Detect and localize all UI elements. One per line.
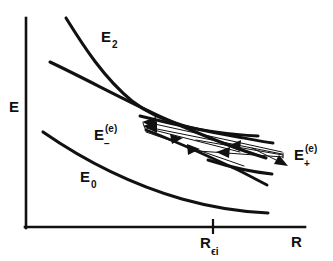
transition-arrow-6-head: [216, 147, 230, 158]
x-tick-label: R ϵi: [200, 234, 219, 257]
transition-arrow-4-head: [187, 144, 200, 155]
x-tick-label-base: R: [200, 234, 211, 251]
energy-curve-diagram: E R R ϵi E 2 E 0 E − (e): [0, 0, 333, 261]
y-axis-label: E: [9, 98, 19, 115]
branch-label-e-minus-superscript: (e): [105, 123, 117, 134]
branch-label-e-plus: E + (e): [294, 143, 317, 169]
curve-label-e0: E 0: [80, 168, 97, 190]
branch-label-e-minus-subscript: −: [104, 138, 110, 149]
branch-label-e-plus-subscript: +: [304, 158, 310, 169]
curves-group: [43, 18, 273, 213]
curve-label-e0-base: E: [80, 168, 90, 185]
branch-label-e-minus-base: E: [94, 126, 104, 143]
curve-label-e0-subscript: 0: [91, 179, 97, 190]
x-tick-label-subscript: ϵi: [211, 246, 219, 257]
diagram-svg: E R R ϵi E 2 E 0 E − (e): [0, 0, 333, 261]
curve-label-e2-subscript: 2: [112, 39, 118, 50]
transition-arrow-1-line: [150, 123, 282, 152]
branch-label-e-plus-superscript: (e): [305, 143, 317, 154]
curve-label-e2: E 2: [101, 28, 118, 50]
x-axis-label: R: [291, 233, 302, 250]
branch-label-e-plus-base: E: [294, 146, 304, 163]
branch-label-e-minus: E − (e): [94, 123, 117, 149]
curve-label-e2-base: E: [101, 28, 111, 45]
